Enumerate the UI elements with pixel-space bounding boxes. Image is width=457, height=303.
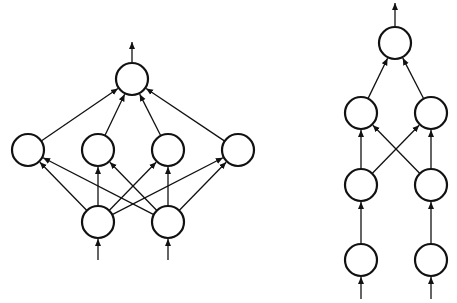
deep-network [345, 3, 447, 299]
connection-edge [179, 162, 226, 210]
hidden-node [82, 134, 114, 166]
diagram-canvas [0, 0, 457, 303]
hidden-node [12, 134, 44, 166]
output-node [379, 27, 411, 59]
hidden2-node [345, 97, 377, 129]
hidden-node [222, 134, 254, 166]
input-node [415, 244, 447, 276]
connection-edge [368, 58, 388, 98]
connection-edge [40, 162, 87, 210]
input-node [345, 244, 377, 276]
input-node [82, 206, 114, 238]
connection-edge [403, 58, 424, 99]
output-node [116, 63, 148, 95]
neural-network-diagram [0, 0, 457, 303]
hidden2-node [415, 97, 447, 129]
connection-edge [146, 88, 225, 141]
connection-edge [140, 94, 161, 136]
hidden1-node [345, 169, 377, 201]
hidden1-node [415, 169, 447, 201]
hidden-node [152, 134, 184, 166]
input-node [152, 206, 184, 238]
wide-network [12, 42, 254, 260]
connection-edge [105, 94, 125, 135]
